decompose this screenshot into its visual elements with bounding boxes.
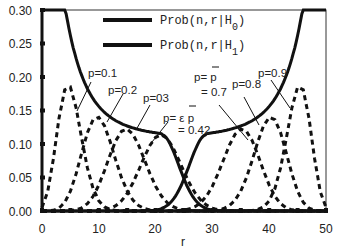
x-tick [210,208,214,213]
annotation-p042-value: = 0.42 [178,124,210,136]
y-tick-label: 0.30 [9,4,33,18]
annotation-p07-value: = 0.7 [201,86,227,98]
x-tick [296,208,300,213]
probability-chart: 0.30 0.25 0.20 0.15 0.10 0.05 0.00 0 10 … [0,0,337,248]
x-tick-label: 20 [148,222,162,236]
annotation-p03: p=03 [143,92,169,104]
annotation-p07: p= p [194,71,217,83]
x-tick [324,208,328,213]
annotation-p09: p=0.9 [258,67,287,79]
x-tick-label: 50 [319,222,333,236]
y-tick-label: 0.05 [9,171,33,185]
y-tick [40,75,45,79]
y-tick-label: 0.15 [9,104,33,118]
x-tick [267,208,271,213]
x-tick-label: 30 [205,222,219,236]
binomial-curves [42,87,326,211]
y-tick-label: 0.25 [9,37,33,51]
x-tick [40,208,44,213]
legend-label-h1: Prob(n,r|H1) [160,39,245,58]
x-tick-label: 10 [92,222,106,236]
annotation-p042: p= ε p [163,112,194,124]
annotation-p08: p=0.8 [232,78,261,90]
x-tick [68,208,72,213]
y-tick [40,142,45,146]
y-tick-label: 0.10 [9,138,33,152]
annotation-p01: p=0.1 [88,67,117,79]
x-tick [154,208,158,213]
y-tick [40,8,45,12]
binomial-curve-p=0.1 [42,87,326,211]
x-tick [125,208,129,213]
y-tick-label: 0.00 [9,205,33,219]
legend-label-h0: Prob(n,r|H0) [160,14,245,33]
x-axis-label: r [181,235,185,248]
y-tick [40,109,45,113]
x-tick-label: 0 [39,222,46,236]
y-tick [40,176,45,180]
x-tick [97,208,101,213]
y-tick-label: 0.20 [9,71,33,85]
x-tick-label: 40 [262,222,276,236]
x-tick [182,208,186,213]
x-tick [239,208,243,213]
annotation-p02: p=0.2 [108,84,137,96]
y-tick [40,42,45,46]
